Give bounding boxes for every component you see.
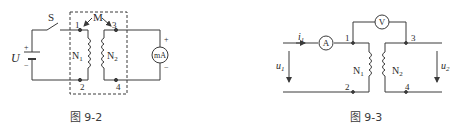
terminal-3: 3 — [411, 33, 416, 43]
voltmeter-label: V — [379, 17, 386, 27]
figure-caption: 图 9-2 — [70, 111, 102, 124]
terminal-1: 1 — [75, 20, 80, 30]
meter-label: mA — [154, 51, 166, 60]
terminal-2: 2 — [345, 82, 350, 92]
u1-label: u1 — [276, 60, 285, 73]
mutual-label: M — [93, 11, 103, 23]
coil-n1-label: N1 — [353, 65, 364, 78]
current-label: i1 — [298, 31, 304, 44]
terminal-1: 1 — [345, 33, 350, 43]
terminal-4: 4 — [405, 82, 410, 92]
terminal-4: 4 — [116, 82, 121, 92]
coil-n2-label: N2 — [392, 65, 403, 78]
mutual-arrow-right — [102, 18, 111, 26]
figure-9-2 — [24, 12, 168, 94]
meter-plus: + — [164, 35, 169, 44]
figure-caption: 图 9-3 — [350, 111, 382, 124]
circuit-diagrams: S U + − M 1 3 2 4 N1 N2 mA + − 图 9-2 — [0, 0, 455, 128]
source-label: U — [11, 51, 21, 65]
figure-9-3 — [283, 15, 442, 93]
ammeter-label: A — [323, 38, 330, 48]
source-minus: − — [24, 61, 29, 70]
switch — [47, 23, 58, 30]
meter-minus: − — [164, 63, 169, 72]
terminal-3: 3 — [112, 20, 117, 30]
coil-n2-label: N2 — [107, 50, 118, 63]
mutual-arrow-left — [84, 18, 92, 26]
u2-label: u2 — [441, 60, 450, 73]
figure-9-3-labels: i1 A V 1 3 2 4 N1 N2 u1 u2 图 9-3 — [276, 17, 450, 124]
coil-n1-label: N1 — [72, 50, 83, 63]
terminal-2: 2 — [80, 82, 85, 92]
source-plus: + — [24, 43, 29, 52]
figure-9-2-labels: S U + − M 1 3 2 4 N1 N2 mA + − 图 9-2 — [11, 11, 169, 124]
switch-label: S — [48, 11, 54, 23]
